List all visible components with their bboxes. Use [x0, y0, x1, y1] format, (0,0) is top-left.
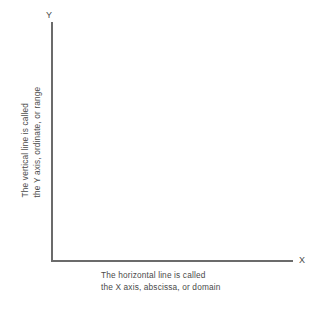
- y-axis-line: [51, 22, 53, 262]
- x-axis-caption-line-2: the X axis, abscissa, or domain: [101, 282, 220, 294]
- coordinate-axes-diagram: Y X The vertical line is called the Y ax…: [0, 0, 319, 312]
- y-axis-letter: Y: [46, 11, 52, 20]
- x-axis-caption-line-1: The horizontal line is called: [101, 270, 220, 282]
- y-axis-caption-line-2: the Y axis, ordinate, or range: [31, 87, 43, 198]
- x-axis-line: [51, 260, 293, 262]
- y-axis-caption-line-1: The vertical line is called: [20, 87, 32, 198]
- x-axis-letter: X: [299, 256, 305, 265]
- y-axis-caption: The vertical line is called the Y axis, …: [20, 87, 43, 198]
- x-axis-caption: The horizontal line is called the X axis…: [101, 270, 220, 293]
